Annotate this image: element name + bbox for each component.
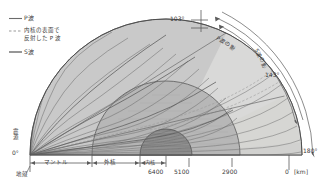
depth-tick-6400: 6400 bbox=[148, 169, 163, 175]
angle-143-label: 143° bbox=[265, 72, 279, 78]
angle-180-label: 180° bbox=[303, 148, 317, 154]
depth-tick-2900: 2900 bbox=[222, 169, 237, 175]
legend-reflected-p-wave-label-line1: 内核の表面で bbox=[24, 28, 60, 34]
crust-label: 地殻 bbox=[16, 172, 28, 178]
angle-0-label: 0° bbox=[12, 150, 19, 156]
angle-103-label: 103° bbox=[170, 16, 184, 22]
legend-reflected-p-wave-label-line2: 反射した P 波 bbox=[24, 36, 61, 42]
legend-p-wave-label: P波 bbox=[24, 15, 34, 21]
seismic-diagram-figure: P波 内核の表面で 反射した P 波 S波 103° 143° 180° 0° … bbox=[0, 0, 328, 191]
layer-outer-core-label: 外核 bbox=[104, 160, 116, 166]
legend-s-wave-label: S波 bbox=[24, 49, 34, 55]
source-label: 震源 bbox=[12, 128, 18, 140]
depth-tick-0: 0 bbox=[285, 169, 289, 175]
depth-tick-5100: 5100 bbox=[174, 169, 189, 175]
layer-inner-core-label: 内核 bbox=[145, 160, 155, 165]
depth-unit-label: [km] bbox=[294, 169, 308, 175]
legend-swatches bbox=[9, 19, 22, 53]
layer-mantle-label: マントル bbox=[44, 160, 68, 166]
